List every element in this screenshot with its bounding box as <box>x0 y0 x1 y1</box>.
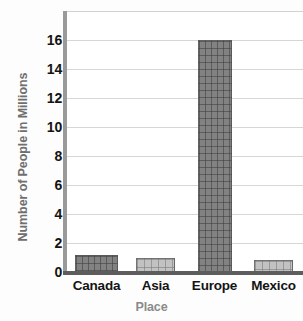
gridline <box>67 69 303 70</box>
bar-asia[interactable] <box>136 258 175 273</box>
y-axis-tick-label: 8 <box>28 149 62 163</box>
bar-europe[interactable] <box>198 40 232 272</box>
y-axis-tick-label: 12 <box>28 91 62 105</box>
x-axis-tick-label-canada: Canada <box>73 279 121 293</box>
bar-canada[interactable] <box>75 255 118 272</box>
y-axis-tick-label: 10 <box>28 120 62 134</box>
y-axis-tick-label: 6 <box>28 178 62 192</box>
gridline <box>67 214 303 215</box>
x-axis-tick-label-asia: Asia <box>142 279 170 293</box>
y-axis-tick-label: 0 <box>28 265 62 279</box>
gridline <box>67 156 303 157</box>
y-axis-tick-label: 14 <box>28 62 62 76</box>
x-axis-title: Place <box>0 300 303 314</box>
y-axis-tick-label: 2 <box>28 236 62 250</box>
x-axis-tick-label-mexico: Mexico <box>251 279 296 293</box>
x-axis-tick-labels: CanadaAsiaEuropeMexico <box>0 279 303 299</box>
gridline <box>67 185 303 186</box>
plot-top-border <box>67 11 303 12</box>
gridline <box>67 40 303 41</box>
x-axis-line <box>63 271 303 275</box>
y-axis-tick-label: 16 <box>28 33 62 47</box>
y-axis-tick-label: 4 <box>28 207 62 221</box>
chart-title <box>0 0 303 3</box>
x-axis-tick-label-europe: Europe <box>192 279 237 293</box>
gridline <box>67 98 303 99</box>
gridline <box>67 127 303 128</box>
gridline <box>67 243 303 244</box>
bar-chart-figure: Number of People in Millions 02468101214… <box>0 0 303 321</box>
plot-area <box>67 11 303 272</box>
y-axis-tick-labels: 0246810121416 <box>28 11 62 272</box>
